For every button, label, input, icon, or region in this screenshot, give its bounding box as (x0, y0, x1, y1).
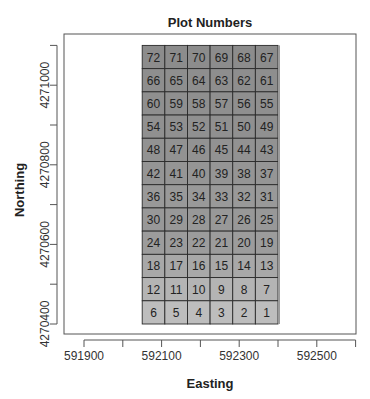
y-tick-label: 4270600 (38, 221, 52, 268)
plot-cell-label: 57 (215, 97, 229, 111)
plot-cell-label: 72 (147, 51, 161, 65)
plot-cell-label: 38 (237, 167, 251, 181)
plot-cell-label: 28 (192, 213, 206, 227)
x-axis-label: Easting (187, 376, 234, 391)
plot-cell-label: 18 (147, 259, 161, 273)
plot-cell-label: 17 (169, 259, 183, 273)
plot-cell-label: 39 (215, 167, 229, 181)
plot-cell-label: 5 (173, 306, 180, 320)
chart-title: Plot Numbers (168, 15, 253, 30)
plot-cell-label: 49 (260, 120, 274, 134)
plot-cell-label: 26 (237, 213, 251, 227)
plot-cell-label: 34 (192, 190, 206, 204)
plot-cell-label: 20 (237, 236, 251, 250)
y-axis: 4270400427060042708004271000 (38, 45, 57, 347)
plot-cell-label: 33 (215, 190, 229, 204)
plot-cell-label: 48 (147, 143, 161, 157)
plot-cell-label: 43 (260, 143, 274, 157)
plot-cell-label: 27 (215, 213, 229, 227)
plot-cell-label: 56 (237, 97, 251, 111)
plot-cell-label: 3 (218, 306, 225, 320)
plot-cell-label: 64 (192, 74, 206, 88)
plot-cell-label: 53 (169, 120, 183, 134)
plot-cell-label: 9 (218, 283, 225, 297)
plot-cell-label: 16 (192, 259, 206, 273)
y-tick-label: 4270800 (38, 141, 52, 188)
plot-cells: 7271706968676665646362616059585756555453… (142, 45, 280, 324)
x-tick-label: 591900 (64, 349, 104, 363)
plot-cell-label: 44 (237, 143, 251, 157)
plot-cell-label: 71 (169, 51, 183, 65)
plot-cell-label: 37 (260, 167, 274, 181)
plot-cell-label: 66 (147, 74, 161, 88)
plot-cell-label: 1 (263, 306, 270, 320)
plot-cell-label: 2 (241, 306, 248, 320)
raster-edge (278, 45, 280, 324)
plot-cell-label: 50 (237, 120, 251, 134)
plot-cell-label: 52 (192, 120, 206, 134)
plot-cell-label: 42 (147, 167, 161, 181)
plot-cell-label: 67 (260, 51, 274, 65)
plot-cell-label: 40 (192, 167, 206, 181)
plot-cell-label: 41 (169, 167, 183, 181)
plot-cell-label: 65 (169, 74, 183, 88)
plot-numbers-chart: Plot Numbers 727170696867666564636261605… (0, 0, 370, 399)
plot-cell-label: 23 (169, 236, 183, 250)
plot-cell-label: 63 (215, 74, 229, 88)
plot-cell-label: 62 (237, 74, 251, 88)
plot-cell-label: 61 (260, 74, 274, 88)
plot-cell-label: 21 (215, 236, 229, 250)
y-tick-label: 4271000 (38, 62, 52, 109)
plot-cell-label: 25 (260, 213, 274, 227)
plot-cell-label: 60 (147, 97, 161, 111)
plot-cell-label: 29 (169, 213, 183, 227)
plot-cell-label: 36 (147, 190, 161, 204)
plot-cell-label: 4 (195, 306, 202, 320)
plot-cell-label: 14 (237, 259, 251, 273)
plot-cell-label: 7 (263, 283, 270, 297)
plot-cell-label: 51 (215, 120, 229, 134)
plot-cell-label: 59 (169, 97, 183, 111)
x-axis: 591900592100592300592500 (64, 340, 356, 363)
plot-cell-label: 70 (192, 51, 206, 65)
plot-cell-label: 8 (241, 283, 248, 297)
x-tick-label: 592300 (219, 349, 259, 363)
y-axis-label: Northing (12, 163, 27, 217)
y-tick-label: 4270400 (38, 300, 52, 347)
plot-cell-label: 55 (260, 97, 274, 111)
x-tick-label: 592100 (142, 349, 182, 363)
plot-cell-label: 68 (237, 51, 251, 65)
plot-cell-label: 47 (169, 143, 183, 157)
plot-cell-label: 45 (215, 143, 229, 157)
plot-cell-label: 30 (147, 213, 161, 227)
plot-cell-label: 46 (192, 143, 206, 157)
plot-cell-label: 15 (215, 259, 229, 273)
plot-cell-label: 10 (192, 283, 206, 297)
plot-cell-label: 31 (260, 190, 274, 204)
plot-cell-label: 13 (260, 259, 274, 273)
plot-cell-label: 6 (150, 306, 157, 320)
plot-cell-label: 12 (147, 283, 161, 297)
plot-cell-label: 11 (170, 283, 183, 297)
x-tick-label: 592500 (297, 349, 337, 363)
plot-cell-label: 54 (147, 120, 161, 134)
plot-cell-label: 32 (237, 190, 251, 204)
plot-cell-label: 24 (147, 236, 161, 250)
plot-cell-label: 19 (260, 236, 274, 250)
plot-cell-label: 35 (169, 190, 183, 204)
plot-cell-label: 58 (192, 97, 206, 111)
plot-cell-label: 69 (215, 51, 229, 65)
plot-cell-label: 22 (192, 236, 206, 250)
